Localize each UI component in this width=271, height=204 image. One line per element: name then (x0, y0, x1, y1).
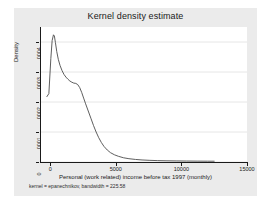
chart-title: Kernel density estimate (14, 11, 257, 21)
x-tick-label: 0 (49, 166, 52, 172)
x-tick-label: 15000 (239, 166, 254, 172)
chart-note: kernel = epanechnikov, bandwidth = 225.5… (29, 183, 125, 189)
y-axis-title: Density (13, 22, 19, 82)
density-line (47, 35, 214, 161)
density-curve-svg (41, 27, 247, 162)
x-tick-label: 5000 (110, 166, 122, 172)
x-axis-title: Personal (work related) income before ta… (14, 174, 257, 180)
x-tick-label: 10000 (174, 166, 189, 172)
y-axis-ticks: 0.0001.0002.0003.0004 (26, 27, 39, 162)
plot-area (41, 27, 247, 162)
chart-figure: Kernel density estimate Density 0.0001.0… (0, 0, 271, 204)
